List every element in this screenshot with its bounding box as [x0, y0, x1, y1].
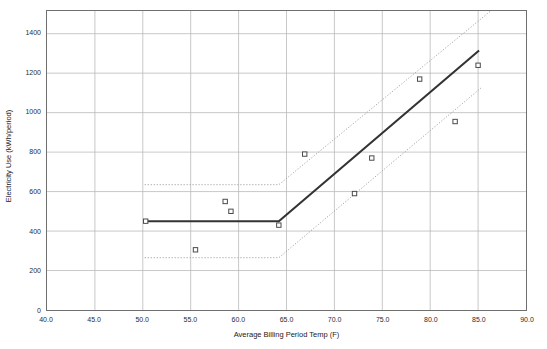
x-axis-tick-label: 70.0: [315, 316, 355, 324]
x-axis-tick-label: 40.0: [26, 316, 66, 324]
x-axis-tick-label: 85.0: [459, 316, 499, 324]
x-axis-title: Average Billing Period Temp (F): [46, 330, 527, 339]
chart-canvas: Electricity Use (kWh/period) 02004006008…: [0, 0, 547, 349]
x-axis-tick-label: 45.0: [74, 316, 114, 324]
x-axis-tick-label: 50.0: [122, 316, 162, 324]
x-axis-tick-label: 80.0: [411, 316, 451, 324]
x-axis-tick-label: 55.0: [170, 316, 210, 324]
x-axis-tick-label: 65.0: [267, 316, 307, 324]
x-axis-tick-label: 90.0: [507, 316, 547, 324]
x-axis-tick-label: 60.0: [218, 316, 258, 324]
x-axis-tick-label: 75.0: [363, 316, 403, 324]
x-axis-tick-labels: 40.045.050.055.060.065.070.075.080.085.0…: [0, 0, 547, 349]
